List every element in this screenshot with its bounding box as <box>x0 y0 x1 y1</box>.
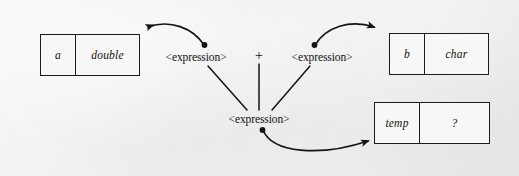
expression-diagram: a double b char temp ? <expression> + <e… <box>0 0 519 176</box>
arrow-expr-right-to-box-b <box>315 24 374 45</box>
line-right-to-bottom <box>272 66 310 110</box>
arrow-origin-dot-right <box>312 42 318 48</box>
line-left-to-bottom <box>208 66 247 110</box>
arrow-origin-dot-left <box>202 42 208 48</box>
variable-box-b: b char <box>389 33 489 75</box>
variable-box-a: a double <box>40 34 140 76</box>
variable-name-temp: temp <box>375 103 420 143</box>
variable-type-b: char <box>425 34 488 74</box>
expression-label-right: <expression> <box>292 51 353 63</box>
operator-label-plus: + <box>255 49 263 63</box>
arrow-expr-left-to-box-a <box>148 24 204 45</box>
expression-label-bottom: <expression> <box>229 113 290 125</box>
expression-label-left: <expression> <box>166 51 227 63</box>
arrow-expr-bottom-to-temp <box>263 130 368 151</box>
diagram-connectors <box>0 0 519 176</box>
variable-box-temp: temp ? <box>374 102 490 144</box>
arrow-origin-dot-bottom <box>260 127 266 133</box>
variable-type-a: double <box>76 35 139 75</box>
variable-name-a: a <box>41 35 76 75</box>
variable-type-temp: ? <box>420 103 489 143</box>
variable-name-b: b <box>390 34 425 74</box>
